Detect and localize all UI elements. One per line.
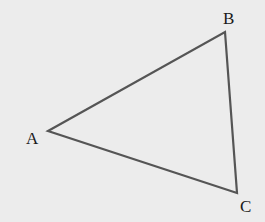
triangle-diagram: A B C (0, 0, 265, 222)
vertex-label-b: B (223, 9, 234, 28)
vertex-label-a: A (26, 129, 39, 148)
vertex-label-c: C (240, 197, 251, 216)
triangle-abc (48, 32, 237, 193)
